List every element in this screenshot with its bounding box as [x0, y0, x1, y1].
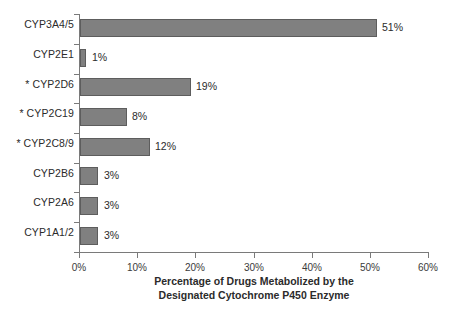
bar-cyp1a1-2	[80, 227, 98, 245]
y-axis-label-4: * CYP2C8/9	[0, 137, 74, 149]
x-axis-title: Percentage of Drugs Metabolized by the D…	[79, 275, 429, 302]
x-axis-tick-6	[428, 253, 429, 258]
bar-cyp2c8-9	[80, 138, 150, 156]
y-axis-label-1: CYP2E1	[0, 48, 74, 60]
y-axis-label-0: CYP3A4/5	[0, 18, 74, 30]
y-axis-label-6: CYP2A6	[0, 196, 74, 208]
bar-value-cyp2a6: 3%	[104, 199, 119, 211]
x-axis-tick-label-1: 10%	[117, 262, 157, 273]
bar-value-cyp2d6: 19%	[196, 80, 217, 92]
x-axis-tick-label-4: 40%	[292, 262, 332, 273]
bar-chart: CYP3A4/5 CYP2E1 * CYP2D6 * CYP2C19 * CYP…	[0, 0, 450, 314]
y-axis-tick-2	[74, 74, 79, 75]
y-axis-tick-1	[74, 44, 79, 45]
bar-value-cyp1a1-2: 3%	[104, 229, 119, 241]
y-axis-tick-3	[74, 103, 79, 104]
x-axis-tick-label-3: 30%	[234, 262, 274, 273]
x-axis-tick-label-5: 50%	[350, 262, 390, 273]
bar-cyp2d6	[80, 78, 191, 96]
x-axis-tick-5	[370, 253, 371, 258]
x-axis-tick-label-0: 0%	[59, 262, 99, 273]
y-axis-label-3: * CYP2C19	[0, 107, 74, 119]
y-axis-label-5: CYP2B6	[0, 167, 74, 179]
x-axis-tick-4	[312, 253, 313, 258]
bar-cyp2a6	[80, 197, 98, 215]
bar-cyp2b6	[80, 167, 98, 185]
x-axis-tick-2	[195, 253, 196, 258]
bar-value-cyp3a4-5: 51%	[382, 21, 403, 33]
bar-value-cyp2c19: 8%	[132, 110, 147, 122]
y-axis-tick-7	[74, 222, 79, 223]
y-axis-label-2: * CYP2D6	[0, 78, 74, 90]
x-axis-title-line-2: Designated Cytochrome P450 Enzyme	[79, 289, 429, 303]
y-axis-tick-0	[74, 14, 79, 15]
x-axis-tick-label-6: 60%	[408, 262, 448, 273]
x-axis-tick-3	[254, 253, 255, 258]
x-axis-title-line-1: Percentage of Drugs Metabolized by the	[79, 275, 429, 289]
plot-area: 0% 10% 20% 30% 40% 50% 60% 51% 1% 19% 8%…	[79, 14, 428, 252]
x-axis-tick-0	[79, 253, 80, 258]
bar-cyp3a4-5	[80, 19, 377, 37]
y-axis-tick-4	[74, 133, 79, 134]
bar-cyp2c19	[80, 108, 127, 126]
x-axis-tick-label-2: 20%	[175, 262, 215, 273]
bar-cyp2e1	[80, 49, 86, 67]
y-axis-label-7: CYP1A1/2	[0, 226, 74, 238]
bar-value-cyp2e1: 1%	[92, 51, 107, 63]
bar-value-cyp2c8-9: 12%	[155, 140, 176, 152]
y-axis-tick-6	[74, 192, 79, 193]
y-axis-tick-5	[74, 163, 79, 164]
x-axis-tick-1	[137, 253, 138, 258]
bar-value-cyp2b6: 3%	[104, 169, 119, 181]
y-axis-category-labels: CYP3A4/5 CYP2E1 * CYP2D6 * CYP2C19 * CYP…	[0, 14, 74, 252]
